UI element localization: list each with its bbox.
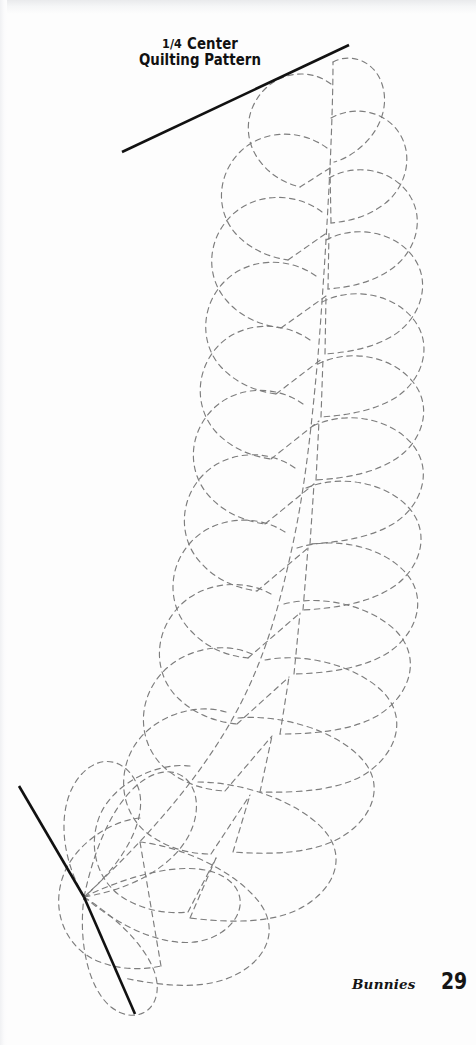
plume-right-8 xyxy=(303,481,421,610)
plume-left-tie-6 xyxy=(265,484,314,524)
plume-left-tie-3 xyxy=(281,296,326,328)
plume-right-4 xyxy=(325,232,423,354)
page-title: 1/4Center Quilting Pattern xyxy=(120,36,280,68)
plume-left-1 xyxy=(248,74,331,187)
plume-right-tie-9 xyxy=(294,613,300,674)
plume-left-tie-13 xyxy=(140,842,161,966)
origin-fan-plume-3 xyxy=(84,868,240,942)
plume-left-13 xyxy=(59,818,161,969)
feather-plume-quilting-motif xyxy=(0,0,476,1045)
plume-left-tie-9 xyxy=(237,677,289,724)
bottom-guide-line xyxy=(84,897,135,1014)
plume-left-5 xyxy=(200,326,310,459)
origin-fan-plume-2 xyxy=(84,772,196,897)
plume-right-2 xyxy=(331,111,407,223)
plume-right-9 xyxy=(294,543,418,674)
fraction-one-quarter: 1/4 xyxy=(162,36,182,51)
plume-right-tie-13 xyxy=(190,858,216,918)
plume-left-tie-7 xyxy=(257,548,308,591)
plume-right-13 xyxy=(190,782,336,921)
plume-right-14 xyxy=(124,842,269,985)
plume-right-6 xyxy=(316,356,424,480)
plume-right-tie-4 xyxy=(325,296,326,354)
plume-left-11 xyxy=(124,709,226,854)
page-title-line-2: Quilting Pattern xyxy=(131,52,269,68)
footer-chapter-name: Bunnies xyxy=(352,976,416,992)
plume-left-7 xyxy=(184,455,295,591)
plume-left-6 xyxy=(193,390,303,524)
plume-left-4 xyxy=(206,262,316,394)
footer-page-number: 29 xyxy=(441,970,467,993)
plume-right-tie-3 xyxy=(328,232,329,289)
scanned-page: 1/4Center Quilting Pattern Bunnies 29 xyxy=(0,0,476,1045)
plume-right-11 xyxy=(260,658,397,792)
plume-right-5 xyxy=(321,294,424,417)
plume-left-tie-12 xyxy=(188,858,216,912)
plume-right-7 xyxy=(310,418,423,544)
plume-left-tie-4 xyxy=(276,358,323,394)
origin-fan-plume-4 xyxy=(82,897,157,1015)
plume-left-tie-10 xyxy=(225,736,272,791)
plume-left-10 xyxy=(143,648,252,791)
plume-right-tie-11 xyxy=(260,736,272,792)
plume-right-1 xyxy=(333,58,385,162)
plume-right-tie-12 xyxy=(233,795,250,852)
plume-right-tie-5 xyxy=(321,358,323,417)
upper-left-guide-line xyxy=(19,786,84,897)
plume-right-tie-7 xyxy=(310,484,314,544)
page-title-line-1: 1/4Center xyxy=(131,36,269,52)
plume-left-tie-5 xyxy=(271,421,319,459)
plume-right-3 xyxy=(328,170,417,289)
plume-right-tie-6 xyxy=(316,421,319,480)
plume-left-tie-2 xyxy=(288,232,328,260)
plume-right-tie-10 xyxy=(280,677,289,734)
plume-right-12 xyxy=(233,717,374,853)
page-footer: Bunnies 29 xyxy=(352,970,470,1004)
plume-left-tie-11 xyxy=(211,795,250,854)
feather-spine xyxy=(84,62,333,897)
plume-left-tie-1 xyxy=(300,168,330,187)
plume-right-tie-2 xyxy=(330,168,331,223)
